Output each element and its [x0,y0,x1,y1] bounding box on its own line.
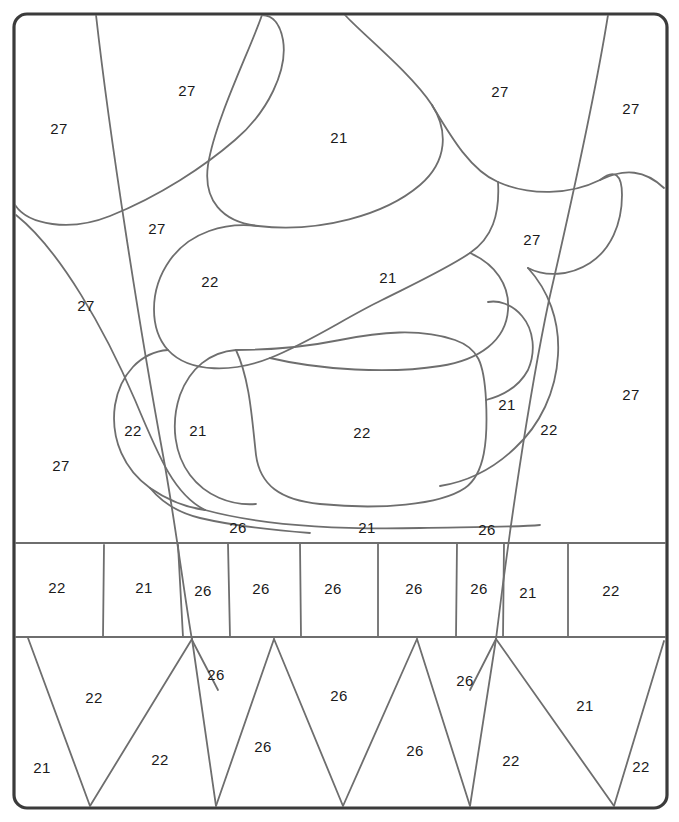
region-label-22: 22 [85,689,103,706]
region-label-26: 26 [405,580,423,597]
region-label-22: 22 [602,582,620,599]
region-label-27: 27 [148,220,166,237]
region-label-26: 26 [194,582,212,599]
region-label-26: 26 [207,666,225,683]
region-label-26: 26 [406,742,424,759]
figure-canvas: 2727212727272722212727222122212227262126… [0,0,679,822]
region-label-26: 26 [470,580,488,597]
region-label-21: 21 [576,697,594,714]
region-label-26: 26 [252,580,270,597]
region-label-22: 22 [124,422,142,439]
region-label-21: 21 [358,519,376,536]
region-label-27: 27 [523,231,541,248]
region-label-22: 22 [48,579,66,596]
region-label-27: 27 [50,120,68,137]
boundary-band-divider-6 [456,543,457,637]
region-label-26: 26 [330,687,348,704]
region-label-27: 27 [52,457,70,474]
region-label-26: 26 [478,521,496,538]
region-label-21: 21 [135,579,153,596]
region-label-21: 21 [498,396,516,413]
region-label-21: 21 [33,759,51,776]
region-label-27: 27 [77,297,95,314]
region-label-27: 27 [491,83,509,100]
region-label-21: 21 [330,129,348,146]
region-label-26: 26 [254,738,272,755]
region-label-22: 22 [540,421,558,438]
region-label-27: 27 [622,100,640,117]
boundary-band-divider-1 [103,545,104,637]
region-label-22: 22 [502,752,520,769]
segmentation-diagram: 2727212727272722212727222122212227262126… [0,0,679,822]
region-label-26: 26 [456,672,474,689]
region-label-27: 27 [622,386,640,403]
region-label-26: 26 [324,580,342,597]
region-label-21: 21 [189,422,207,439]
region-label-21: 21 [379,269,397,286]
region-label-22: 22 [353,424,371,441]
region-label-21: 21 [519,584,537,601]
boundary-band-divider-7 [503,543,504,637]
region-label-22: 22 [151,751,169,768]
boundary-band-divider-4 [300,544,301,637]
region-label-22: 22 [201,273,219,290]
region-label-27: 27 [178,82,196,99]
region-label-22: 22 [632,758,650,775]
region-label-26: 26 [229,519,247,536]
